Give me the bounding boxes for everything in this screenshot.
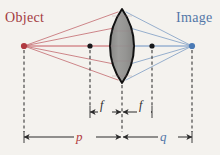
image-label: Image (176, 11, 212, 25)
image-point (189, 43, 195, 49)
right-focal-point (149, 43, 154, 48)
object-label: Object (5, 11, 44, 25)
optics-ray-diagram: Object Image f f p q (0, 0, 220, 155)
object-point (21, 43, 27, 49)
focal-length-right-label: f (139, 99, 142, 111)
focal-length-left-label: f (100, 99, 103, 111)
left-focal-point (87, 43, 92, 48)
image-distance-label: q (160, 130, 167, 143)
object-distance-label: p (76, 130, 83, 143)
